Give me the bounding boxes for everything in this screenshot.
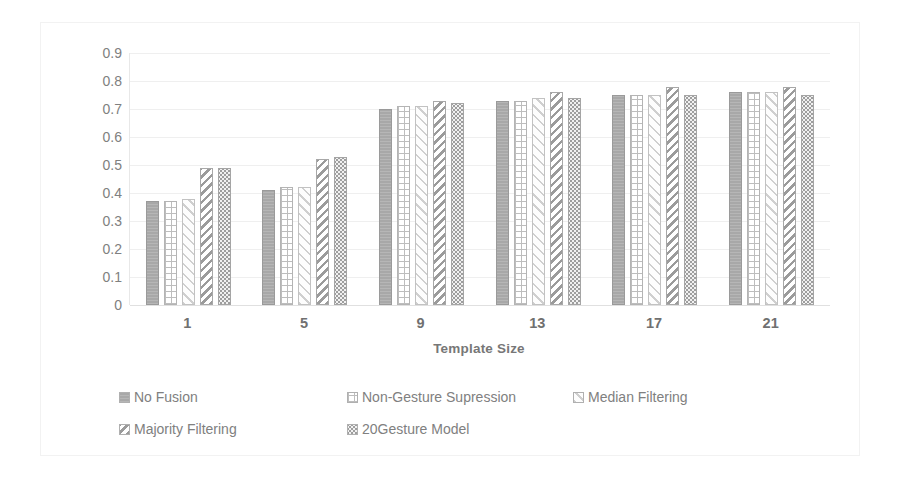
y-axis-tick-label: 0.9: [80, 46, 122, 60]
bar[interactable]: [262, 190, 275, 305]
bar-group: [363, 53, 480, 305]
x-axis-tick-label: 5: [244, 315, 364, 331]
bar-group: [480, 53, 597, 305]
legend-item[interactable]: Median Filtering: [573, 389, 688, 405]
y-axis-tick-label: 0.3: [80, 214, 122, 228]
bar-group: [713, 53, 830, 305]
bar[interactable]: [514, 101, 527, 305]
y-axis-tick-label: 0.5: [80, 158, 122, 172]
bar-group: [247, 53, 364, 305]
plot-area-wrapper: Jaccard Index 00.10.20.30.40.50.60.70.80…: [41, 23, 861, 323]
bar[interactable]: [164, 201, 177, 305]
bar[interactable]: [218, 168, 231, 305]
bar[interactable]: [451, 103, 464, 305]
bar[interactable]: [146, 201, 159, 305]
y-axis-tick-label: 0.6: [80, 130, 122, 144]
y-axis-tick-labels: 00.10.20.30.40.50.60.70.80.9: [81, 53, 126, 305]
legend-label: 20Gesture Model: [362, 421, 469, 437]
plot-area: [129, 53, 830, 305]
y-axis-tick-label: 0.7: [80, 102, 122, 116]
bar[interactable]: [182, 199, 195, 305]
legend-swatch-icon: [119, 392, 130, 403]
legend-label: Median Filtering: [588, 389, 688, 405]
bar[interactable]: [397, 106, 410, 305]
bar-group: [130, 53, 247, 305]
bar[interactable]: [783, 87, 796, 305]
bar-group: [597, 53, 714, 305]
x-axis-tick-label: 1: [127, 315, 247, 331]
y-axis-tick-label: 0: [80, 298, 122, 312]
legend-swatch-icon: [347, 392, 358, 403]
x-axis-tick-label: 9: [361, 315, 481, 331]
bar[interactable]: [801, 95, 814, 305]
bar[interactable]: [415, 106, 428, 305]
bar[interactable]: [334, 157, 347, 305]
y-axis-tick-label: 0.1: [80, 270, 122, 284]
bar[interactable]: [550, 92, 563, 305]
bar[interactable]: [298, 187, 311, 305]
bar[interactable]: [532, 98, 545, 305]
legend-label: Majority Filtering: [134, 421, 237, 437]
legend-item[interactable]: No Fusion: [119, 389, 347, 405]
legend-row: Majority Filtering20Gesture Model: [119, 413, 799, 445]
legend-row: No FusionNon-Gesture SupressionMedian Fi…: [119, 381, 799, 413]
legend-label: No Fusion: [134, 389, 198, 405]
bar[interactable]: [630, 95, 643, 305]
y-axis-tick-label: 0.8: [80, 74, 122, 88]
bar[interactable]: [765, 92, 778, 305]
bar[interactable]: [684, 95, 697, 305]
bar[interactable]: [433, 101, 446, 305]
legend-swatch-icon: [119, 424, 130, 435]
bar[interactable]: [729, 92, 742, 305]
chart-container: Jaccard Index 00.10.20.30.40.50.60.70.80…: [40, 22, 860, 456]
x-axis-tick-label: 17: [594, 315, 714, 331]
bar[interactable]: [568, 98, 581, 305]
bar[interactable]: [496, 101, 509, 305]
y-axis-tick-label: 0.4: [80, 186, 122, 200]
x-axis-title: Template Size: [129, 341, 829, 356]
bar[interactable]: [200, 168, 213, 305]
bar[interactable]: [612, 95, 625, 305]
legend-swatch-icon: [347, 424, 358, 435]
bar[interactable]: [648, 95, 661, 305]
legend-item[interactable]: Non-Gesture Supression: [347, 389, 573, 405]
bar[interactable]: [747, 92, 760, 305]
bar[interactable]: [280, 187, 293, 305]
x-axis-tick-label: 13: [477, 315, 597, 331]
legend-swatch-icon: [573, 392, 584, 403]
legend-label: Non-Gesture Supression: [362, 389, 516, 405]
x-axis-tick-label: 21: [711, 315, 831, 331]
y-axis-tick-label: 0.2: [80, 242, 122, 256]
chart-legend: No FusionNon-Gesture SupressionMedian Fi…: [119, 381, 799, 445]
legend-item[interactable]: 20Gesture Model: [347, 421, 573, 437]
bar[interactable]: [666, 87, 679, 305]
gridline: [130, 305, 830, 306]
legend-item[interactable]: Majority Filtering: [119, 421, 347, 437]
bar[interactable]: [379, 109, 392, 305]
bar[interactable]: [316, 159, 329, 305]
